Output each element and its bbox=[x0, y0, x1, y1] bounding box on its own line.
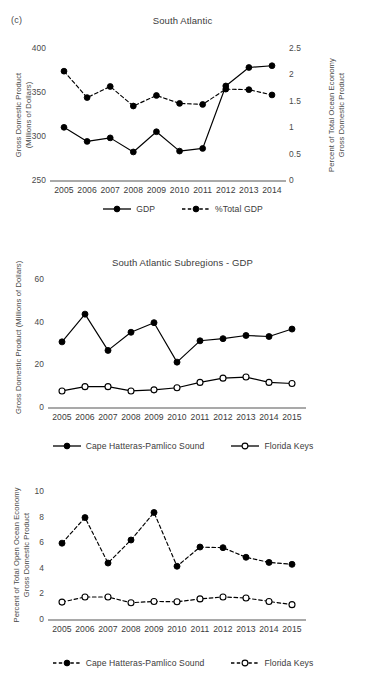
data-point bbox=[220, 375, 226, 381]
chart-south-atlantic: (c) South Atlantic Gross Domestic Produc… bbox=[0, 0, 365, 232]
data-point bbox=[200, 146, 206, 152]
data-point bbox=[197, 596, 203, 602]
data-point bbox=[105, 594, 111, 600]
y-tick-right: 0 bbox=[289, 175, 315, 185]
plot-area-subregions-percent bbox=[48, 484, 306, 624]
y-tick-left: 250 bbox=[14, 175, 46, 185]
legend-swatch bbox=[52, 658, 82, 668]
plot-area-south-atlantic bbox=[50, 42, 286, 182]
data-point bbox=[59, 339, 65, 345]
data-point bbox=[154, 129, 160, 135]
x-tick: 2015 bbox=[277, 412, 307, 422]
y-tick-right: 0.5 bbox=[289, 149, 315, 159]
plot-svg bbox=[50, 42, 286, 182]
data-point bbox=[154, 93, 160, 99]
legend-item-0[interactable]: GDP bbox=[102, 204, 155, 214]
y-tick-right: 2 bbox=[289, 69, 315, 79]
plot-svg bbox=[48, 484, 306, 624]
data-point bbox=[220, 545, 226, 551]
legend-south-atlantic: GDP%Total GDP bbox=[0, 204, 365, 214]
data-point bbox=[82, 311, 88, 317]
data-point bbox=[105, 347, 111, 353]
y-axis-title-left: Gross Domestic Product (Millions of Doll… bbox=[14, 49, 33, 181]
legend-subregions-gdp: Cape Hatteras-Pamlico SoundFlorida Keys bbox=[0, 441, 365, 451]
y-tick-left: 350 bbox=[14, 87, 46, 97]
legend-item-0[interactable]: Cape Hatteras-Pamlico Sound bbox=[52, 441, 205, 451]
y-tick: 10 bbox=[18, 486, 44, 496]
y-tick: 4 bbox=[18, 563, 44, 573]
data-point bbox=[82, 384, 88, 390]
data-point bbox=[246, 87, 252, 93]
y-axis-title-right: Percent of Total Ocean Economy Gross Dom… bbox=[327, 47, 346, 183]
y-tick-left: 400 bbox=[14, 43, 46, 53]
data-point bbox=[107, 135, 113, 141]
y-axis-title: Percent of Total Open Ocean Economy Gros… bbox=[12, 482, 31, 628]
data-point bbox=[269, 63, 275, 69]
y-tick: 40 bbox=[16, 317, 44, 327]
y-axis-title-right-line1: Percent of Total Ocean Economy bbox=[327, 58, 336, 172]
data-point bbox=[289, 326, 295, 332]
legend-subregions-percent: Cape Hatteras-Pamlico SoundFlorida Keys bbox=[0, 658, 365, 668]
y-tick: 0 bbox=[16, 402, 44, 412]
x-tick: 2015 bbox=[277, 624, 307, 634]
y-tick: 60 bbox=[16, 274, 44, 284]
series-line-1 bbox=[64, 71, 272, 106]
data-point bbox=[220, 594, 226, 600]
data-point bbox=[84, 139, 90, 145]
y-tick-right: 1.5 bbox=[289, 96, 315, 106]
data-point bbox=[200, 102, 206, 108]
data-point bbox=[246, 65, 252, 71]
data-point bbox=[105, 384, 111, 390]
data-point bbox=[174, 359, 180, 365]
data-point bbox=[269, 92, 275, 98]
data-point bbox=[151, 509, 157, 515]
y-tick: 8 bbox=[18, 512, 44, 522]
y-tick: 6 bbox=[18, 537, 44, 547]
y-axis-title-right-line2: Gross Domestic Product bbox=[337, 73, 346, 158]
legend-label: GDP bbox=[136, 204, 155, 214]
data-point bbox=[289, 602, 295, 608]
x-tick: 2014 bbox=[256, 185, 288, 195]
data-point bbox=[59, 540, 65, 546]
data-point bbox=[151, 387, 157, 393]
chart-south-atlantic-subregions-gdp: South Atlantic Subregions - GDP Gross Do… bbox=[0, 245, 365, 467]
data-point bbox=[84, 95, 90, 101]
y-tick-left: 300 bbox=[14, 131, 46, 141]
y-tick-right: 2.5 bbox=[289, 43, 315, 53]
data-point bbox=[220, 336, 226, 342]
chart-south-atlantic-subregions-percent: Percent of Total Open Ocean Economy Gros… bbox=[0, 462, 365, 685]
chart-title-south-atlantic: South Atlantic bbox=[0, 15, 365, 26]
data-point bbox=[177, 148, 183, 154]
data-point bbox=[243, 554, 249, 560]
data-point bbox=[105, 560, 111, 566]
data-point bbox=[266, 379, 272, 385]
data-point bbox=[174, 563, 180, 569]
legend-swatch bbox=[102, 204, 132, 214]
data-point bbox=[82, 515, 88, 521]
legend-item-1[interactable]: Florida Keys bbox=[230, 658, 313, 668]
legend-swatch bbox=[230, 441, 260, 451]
data-point bbox=[151, 320, 157, 326]
legend-item-0[interactable]: Cape Hatteras-Pamlico Sound bbox=[52, 658, 205, 668]
data-point bbox=[197, 544, 203, 550]
legend-item-1[interactable]: Florida Keys bbox=[230, 441, 313, 451]
data-point bbox=[130, 149, 136, 155]
data-point bbox=[223, 86, 229, 92]
legend-label: Florida Keys bbox=[264, 441, 313, 451]
legend-swatch bbox=[181, 204, 211, 214]
series-line-0 bbox=[64, 66, 272, 152]
legend-label: %Total GDP bbox=[215, 204, 263, 214]
data-point bbox=[243, 332, 249, 338]
data-point bbox=[107, 84, 113, 90]
y-axis-title-line1: Percent of Total Open Ocean Economy bbox=[12, 487, 21, 622]
legend-item-1[interactable]: %Total GDP bbox=[181, 204, 263, 214]
data-point bbox=[59, 599, 65, 605]
y-tick: 2 bbox=[18, 588, 44, 598]
data-point bbox=[61, 124, 67, 130]
series-line-0 bbox=[62, 512, 292, 566]
y-tick: 20 bbox=[16, 359, 44, 369]
figure-panel-c: (c) South Atlantic Gross Domestic Produc… bbox=[0, 0, 365, 685]
data-point bbox=[128, 329, 134, 335]
legend-swatch bbox=[230, 658, 260, 668]
data-point bbox=[289, 561, 295, 567]
